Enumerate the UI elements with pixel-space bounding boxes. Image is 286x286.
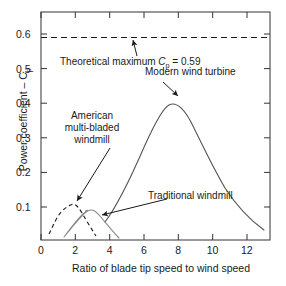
annotation-arrow-american-multi-bladed-windmill: [77, 148, 110, 201]
wind-turbine-power-coefficient-chart: 0.6 0.5 0.4 0.3 0.2 0.1 0 2 4 6 8 10 12 …: [0, 0, 286, 286]
annotation-american-line-3: windmill: [52, 134, 132, 146]
x-tick-label-4: 4: [107, 244, 113, 256]
annotation-theoretical-maximum-prefix: Theoretical maximum: [60, 56, 158, 67]
x-tick-label-2: 2: [72, 244, 78, 256]
annotation-american-multi-bladed-windmill: American multi-bladed windmill: [52, 110, 132, 146]
annotation-arrow-modern-wind-turbine: [163, 82, 178, 96]
annotation-american-line-1: American: [52, 110, 132, 122]
annotation-traditional-windmill: Traditional windmill: [148, 190, 233, 201]
y-tick-label-0-6: 0.6: [16, 28, 31, 40]
x-axis-title: Ratio of blade tip speed to wind speed: [72, 262, 250, 274]
x-tick-label-6: 6: [141, 244, 147, 256]
x-tick-label-8: 8: [175, 244, 181, 256]
y-axis-title-text: Power coefficient – C: [17, 72, 29, 171]
y-axis-title: Power coefficient – Cp: [17, 50, 32, 190]
series-american-multi-bladed-windmill-curve: [49, 204, 96, 236]
x-tick-label-10: 10: [207, 244, 219, 256]
annotation-modern-wind-turbine: Modern wind turbine: [145, 66, 236, 77]
annotation-arrow-theoretical-maximum: [133, 40, 137, 56]
x-tick-label-0: 0: [38, 244, 44, 256]
annotation-arrow-traditional-windmill: [102, 199, 167, 215]
annotation-american-line-2: multi-bladed: [52, 122, 132, 134]
y-tick-label-0-1: 0.1: [16, 201, 31, 213]
y-axis-title-subscript: p: [24, 68, 33, 72]
x-tick-label-12: 12: [241, 244, 253, 256]
